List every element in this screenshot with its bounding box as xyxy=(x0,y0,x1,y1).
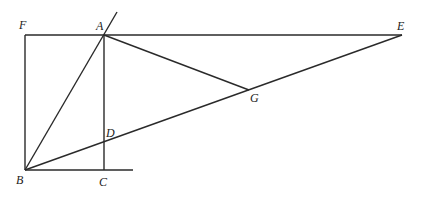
label-c: C xyxy=(99,175,108,189)
label-f: F xyxy=(18,18,27,32)
label-b: B xyxy=(16,173,24,187)
segment-ag xyxy=(104,35,249,90)
geometry-diagram: F A E G D B C xyxy=(0,0,425,198)
label-e: E xyxy=(396,19,405,33)
segment-be xyxy=(25,35,402,170)
label-d: D xyxy=(105,126,115,140)
label-g: G xyxy=(250,91,259,105)
diagram-canvas: F A E G D B C xyxy=(0,0,425,198)
label-a: A xyxy=(95,19,104,33)
